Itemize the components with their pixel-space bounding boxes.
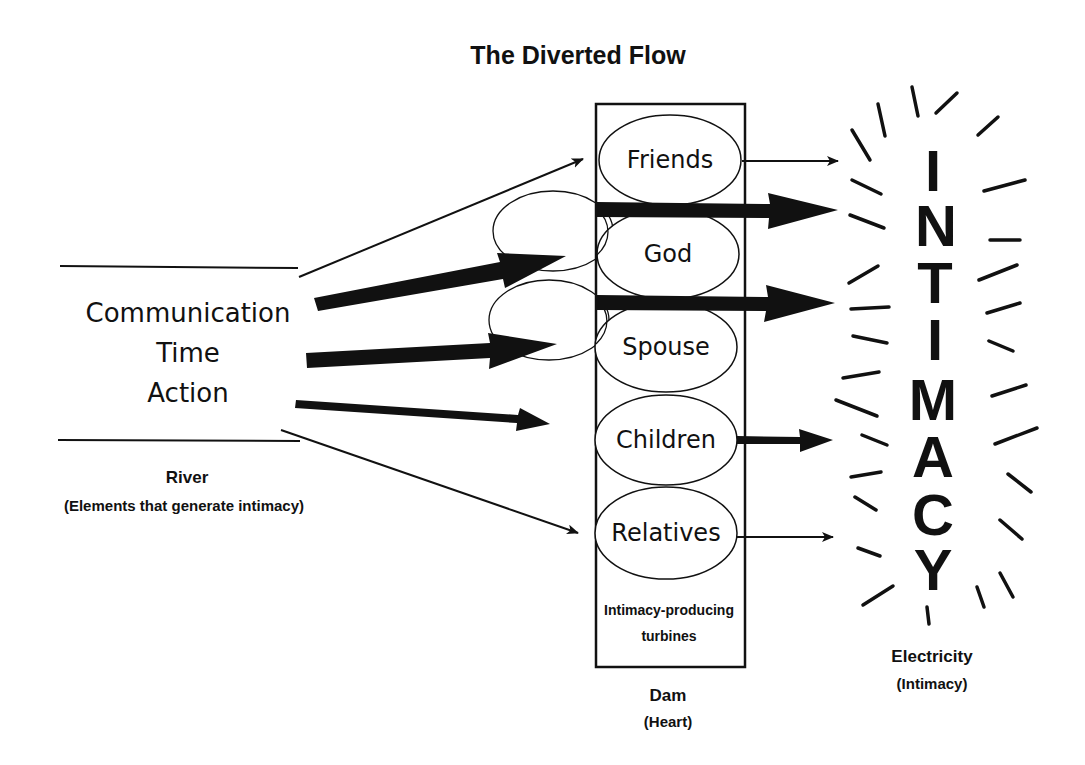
intimacy-letter-4: I [927, 307, 943, 372]
intimacy-letter-5: M [909, 367, 957, 432]
river-sublabel: (Elements that generate intimacy) [64, 497, 304, 514]
turbine-relatives: Relatives [595, 487, 737, 579]
incoming-arrow-relatives [281, 430, 578, 533]
turbine-label-spouse: Spouse [622, 333, 710, 361]
turbine-label-relatives: Relatives [611, 519, 720, 547]
river-bank-bottom [58, 440, 300, 441]
river-element-time: Time [155, 338, 220, 368]
turbine-label-children: Children [616, 426, 716, 454]
turbine-friends: Friends [599, 115, 741, 205]
river-element-communication: Communication [86, 298, 291, 328]
diverted-flow-diagram: The Diverted Flow Communication Time Act… [0, 0, 1085, 765]
turbine-label-god: God [644, 240, 693, 268]
turbine-god: God [597, 209, 739, 299]
incoming-arrow-children [295, 400, 550, 431]
intimacy-letter-8: Y [914, 537, 953, 602]
intimacy-letter-3: T [917, 250, 952, 315]
intimacy-letter-2: N [915, 193, 957, 258]
diagram-title: The Diverted Flow [470, 41, 686, 69]
turbine-caption-line1: Intimacy-producing [604, 602, 734, 618]
dam-sublabel: (Heart) [644, 713, 692, 730]
turbine-caption-line2: turbines [641, 628, 696, 644]
turbine-label-friends: Friends [627, 146, 713, 174]
electricity-label: Electricity [891, 647, 973, 666]
incoming-arrow-spouse [306, 333, 557, 369]
electricity-sublabel: (Intimacy) [897, 675, 968, 692]
outgoing-arrow-children [737, 429, 833, 452]
turbine-spouse: Spouse [595, 302, 737, 392]
intimacy-word: I N T I M A C Y [909, 138, 957, 602]
river-label: River [166, 468, 209, 487]
river-bank-top [60, 266, 298, 268]
intimacy-letter-6: A [912, 424, 954, 489]
dam-label: Dam [650, 686, 687, 705]
river-element-action: Action [147, 378, 228, 408]
turbine-children: Children [595, 395, 737, 485]
